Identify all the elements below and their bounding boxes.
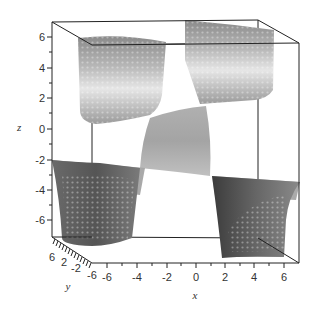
x-tick-label: 4 — [251, 271, 257, 283]
x-tick-label: -2 — [162, 271, 172, 283]
z-tick-label: 0 — [39, 123, 45, 135]
z-tick-label: -4 — [35, 184, 45, 196]
y-tick-label: 6 — [49, 251, 55, 263]
z-tick-label: 2 — [39, 92, 45, 104]
z-tick-labels: 6 4 2 0 -2 -4 -6 — [35, 31, 45, 226]
y-tick-label: -6 — [87, 269, 97, 281]
y-tick-label: -2 — [71, 262, 81, 274]
y-axis-title: y — [65, 280, 71, 292]
x-tick-label: 6 — [281, 271, 287, 283]
x-tick-label: 2 — [222, 271, 228, 283]
x-axis-title: x — [192, 289, 198, 301]
x-tick-labels: -6 -4 -2 0 2 4 6 — [102, 271, 287, 283]
y-tick-label: 2 — [61, 256, 67, 268]
z-tick-label: -6 — [35, 214, 45, 226]
z-axis — [47, 37, 52, 220]
z-axis-title: z — [16, 121, 22, 133]
x-tick-label: -4 — [132, 271, 142, 283]
surface — [52, 20, 300, 258]
z-tick-label: 6 — [39, 31, 45, 43]
x-axis — [107, 263, 284, 268]
x-tick-label: 0 — [193, 271, 199, 283]
z-tick-label: -2 — [35, 154, 45, 166]
x-tick-label: -6 — [102, 271, 112, 283]
center-sheet — [140, 106, 211, 176]
z-tick-label: 4 — [39, 62, 45, 74]
surface-plot: 6 4 2 0 -2 -4 -6 z -6 -4 -2 0 2 4 6 x — [0, 0, 324, 322]
